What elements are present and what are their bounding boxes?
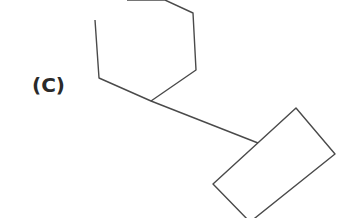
diagram-canvas: (C) [0,0,353,218]
rectangle-shape [213,108,335,218]
diagram-svg [0,0,353,218]
connecting-line [151,101,258,143]
hexagon-shape [95,0,196,101]
